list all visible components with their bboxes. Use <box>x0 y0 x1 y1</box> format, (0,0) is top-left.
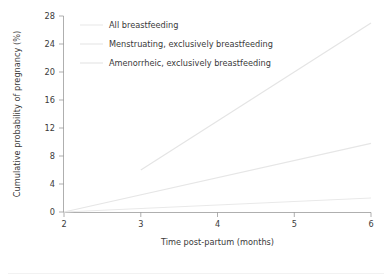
y-tick-label-24: 24 <box>45 39 55 49</box>
x-tick-label-6: 6 <box>368 219 373 229</box>
x-tick-label-4: 4 <box>215 219 220 229</box>
y-tick-label-12: 12 <box>45 123 55 133</box>
x-tick-label-2: 2 <box>61 219 66 229</box>
series-line-menstruating-exclusively-breastfeeding <box>64 143 371 212</box>
y-tick-label-4: 4 <box>50 179 55 189</box>
x-axis-title: Time post-partum (months) <box>160 237 274 247</box>
legend-label-menstruating-exclusively-breastfeeding: Menstruating, exclusively breastfeeding <box>109 39 273 49</box>
footer-divider <box>8 273 384 274</box>
series-line-all-breastfeeding <box>64 198 371 212</box>
series-group <box>64 23 371 212</box>
line-chart: 28 24 20 16 12 8 4 0 2 3 4 5 6 Time post… <box>0 0 392 278</box>
y-axis-title: Cumulative probability of pregnancy (%) <box>12 31 22 197</box>
chart-legend: All breastfeeding Menstruating, exclusiv… <box>80 20 273 68</box>
y-axis-ticks: 28 24 20 16 12 8 4 0 <box>45 11 64 217</box>
y-tick-label-20: 20 <box>45 67 55 77</box>
chart-figure: 28 24 20 16 12 8 4 0 2 3 4 5 6 Time post… <box>0 0 392 278</box>
y-tick-label-28: 28 <box>45 11 55 21</box>
y-tick-label-0: 0 <box>50 207 55 217</box>
legend-label-all-breastfeeding: All breastfeeding <box>109 20 178 30</box>
y-tick-label-16: 16 <box>45 95 55 105</box>
y-tick-label-8: 8 <box>50 151 55 161</box>
legend-label-amenorrheic-exclusively-breastfeeding: Amenorrheic, exclusively breastfeeding <box>109 58 271 68</box>
x-tick-label-5: 5 <box>292 219 297 229</box>
x-tick-label-3: 3 <box>138 219 143 229</box>
x-axis-ticks: 2 3 4 5 6 <box>61 213 373 230</box>
